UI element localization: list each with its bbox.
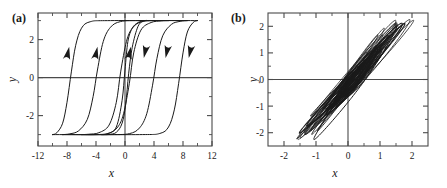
svg-text:0: 0: [346, 151, 351, 161]
svg-text:8: 8: [181, 151, 186, 161]
svg-text:-8: -8: [63, 151, 71, 161]
svg-text:-4: -4: [92, 151, 100, 161]
panel-b-xlabel: x: [223, 166, 447, 181]
panel-b: (b) -2-1012-2-1012 x y: [223, 0, 447, 188]
panel-a-xlabel: x: [0, 166, 223, 181]
svg-text:-12: -12: [32, 151, 45, 161]
svg-text:-2: -2: [256, 128, 264, 138]
svg-text:4: 4: [152, 151, 157, 161]
svg-text:12: 12: [207, 151, 217, 161]
svg-text:2: 2: [29, 35, 34, 45]
svg-text:1: 1: [378, 151, 383, 161]
svg-text:-1: -1: [312, 151, 320, 161]
svg-text:1: 1: [259, 48, 264, 58]
svg-text:-2: -2: [26, 111, 34, 121]
panel-a-plot: -12-8-404812-202: [0, 0, 223, 188]
svg-text:0: 0: [123, 151, 128, 161]
svg-text:-2: -2: [280, 151, 288, 161]
panel-a: (a) -12-8-404812-202 x y: [0, 0, 223, 188]
panel-b-ylabel: y: [246, 66, 261, 94]
panel-a-ylabel: y: [5, 66, 20, 94]
svg-text:2: 2: [410, 151, 415, 161]
panel-b-plot: -2-1012-2-1012: [223, 0, 447, 188]
figure-root: (a) -12-8-404812-202 x y (b) -2-1012-2-1…: [0, 0, 447, 188]
svg-text:2: 2: [259, 22, 264, 32]
svg-text:0: 0: [29, 73, 34, 83]
svg-text:-1: -1: [256, 102, 264, 112]
